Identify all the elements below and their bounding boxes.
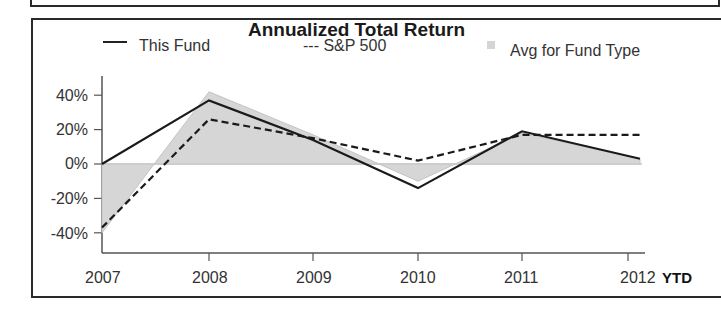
legend-area-swatch-icon [487, 41, 495, 49]
legend-avg-fund-type: Avg for Fund Type [510, 42, 640, 60]
ytd-label: YTD [662, 269, 692, 286]
x-tick-label: 2010 [400, 269, 436, 287]
y-tick-label: 40% [28, 87, 88, 105]
y-tick-label: 20% [28, 121, 88, 139]
y-tick-label: -20% [28, 190, 88, 208]
y-tick-label: 0% [28, 155, 88, 173]
series-avg-area [102, 92, 640, 233]
x-tick-label: 2012 [620, 269, 656, 287]
y-tick-label: -40% [28, 225, 88, 243]
x-tick-label: 2007 [85, 269, 121, 287]
legend-sp500: --- S&P 500 [303, 37, 386, 55]
x-ticks [209, 253, 628, 261]
x-tick-label: 2009 [296, 269, 332, 287]
y-ticks [94, 95, 102, 233]
x-tick-label: 2011 [504, 269, 538, 287]
x-tick-label: 2008 [192, 269, 228, 287]
legend-this-fund: This Fund [139, 37, 210, 55]
